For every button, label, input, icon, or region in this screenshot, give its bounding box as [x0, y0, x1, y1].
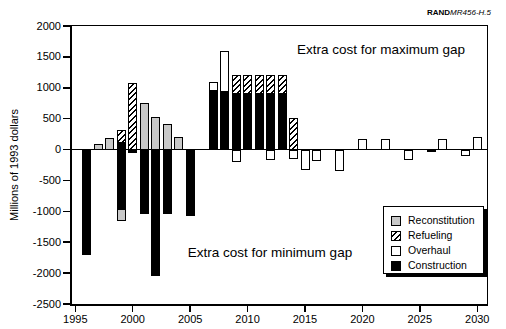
x-tick-mark	[132, 306, 134, 312]
chart-root: RANDMR456-H.5 Millions of 1993 dollars 2…	[0, 0, 506, 329]
bar-1999-reconstitution	[117, 209, 126, 221]
bar-2008-overhaul	[220, 51, 229, 93]
bar-2026-construction	[427, 150, 436, 152]
bar-2008-construction	[220, 92, 229, 149]
bar-2010-refueling	[243, 75, 252, 94]
bar-2001-reconstitution	[140, 103, 149, 149]
y-tick-mark	[63, 272, 70, 274]
legend-item-overhaul: Overhaul	[391, 243, 483, 258]
bar-2007-overhaul	[209, 82, 218, 91]
bar-2012-construction	[266, 94, 275, 150]
bar-2002-construction	[151, 150, 160, 277]
bar-2009-refueling	[232, 75, 241, 94]
y-tick-label: 1500	[15, 50, 61, 63]
y-tick-label: -500	[15, 174, 61, 187]
x-tick-mark	[189, 306, 191, 312]
y-tick-mark	[63, 211, 70, 213]
legend-swatch-overhaul	[391, 246, 401, 256]
bar-2003-construction	[163, 150, 172, 214]
y-tick-mark	[63, 118, 70, 120]
x-tick-label: 2010	[226, 313, 270, 326]
y-tick-mark	[63, 149, 70, 151]
bar-2010-construction	[243, 94, 252, 150]
y-tick-mark	[63, 241, 70, 243]
y-tick-label: 0	[15, 143, 61, 156]
y-tick-label: -1500	[15, 236, 61, 249]
x-tick-mark	[247, 306, 249, 312]
bar-2024-overhaul	[404, 150, 413, 161]
legend-item-reconstitution: Reconstitution	[391, 213, 483, 228]
y-tick-label: -2500	[15, 298, 61, 311]
bar-2011-refueling	[255, 75, 264, 94]
legend-label: Reconstitution	[408, 215, 475, 226]
bar-2013-construction	[278, 94, 287, 150]
y-tick-mark	[63, 25, 70, 27]
annotation-max-gap: Extra cost for maximum gap	[297, 42, 463, 57]
legend-item-construction: Construction	[391, 258, 483, 273]
y-tick-label: -1000	[15, 205, 61, 218]
legend-swatch-reconstitution	[391, 216, 401, 226]
bar-2030-overhaul	[473, 137, 482, 149]
legend-label: Overhaul	[408, 245, 451, 256]
x-tick-label: 2015	[283, 313, 327, 326]
y-tick-label: 500	[15, 112, 61, 125]
x-tick-mark	[75, 306, 77, 312]
y-tick-mark	[63, 180, 70, 182]
bar-2011-construction	[255, 94, 264, 150]
bar-2015-overhaul	[301, 150, 310, 170]
x-tick-label: 2005	[168, 313, 212, 326]
bar-2007-construction	[209, 91, 218, 150]
legend-item-refueling: Refueling	[391, 228, 483, 243]
bar-2014-overhaul	[289, 150, 298, 159]
y-tick-label: 2000	[15, 20, 61, 33]
annotation-min-gap: Extra cost for minimum gap	[184, 245, 356, 260]
x-tick-label: 1995	[53, 313, 97, 326]
bar-2012-refueling	[266, 75, 275, 94]
bar-2000-refueling	[128, 83, 137, 149]
bar-1997-reconstitution	[94, 144, 103, 150]
y-tick-label: 1000	[15, 81, 61, 94]
bar-2003-reconstitution	[163, 124, 172, 150]
x-tick-label: 2020	[340, 313, 384, 326]
bar-2000-construction	[128, 150, 137, 154]
x-tick-label: 2025	[398, 313, 442, 326]
x-tick-mark	[304, 306, 306, 312]
legend-box: ReconstitutionRefuelingOverhaulConstruct…	[383, 206, 484, 274]
x-tick-mark	[362, 306, 364, 312]
bar-1996-construction	[82, 150, 91, 255]
bar-2005-construction	[186, 150, 195, 216]
bar-2001-construction	[140, 150, 149, 215]
bar-1998-reconstitution	[105, 138, 114, 149]
legend-label: Refueling	[408, 230, 452, 241]
legend-swatch-construction	[391, 261, 401, 271]
bar-2022-overhaul	[381, 139, 390, 150]
bar-2013-refueling	[278, 75, 287, 94]
x-tick-mark	[419, 306, 421, 312]
bar-2002-reconstitution	[151, 117, 160, 149]
y-tick-mark	[63, 56, 70, 58]
bar-1999-construction	[117, 150, 126, 209]
bar-2004-reconstitution	[174, 137, 183, 149]
bar-1999-construction	[117, 143, 126, 150]
y-tick-label: -2000	[15, 267, 61, 280]
x-tick-mark	[477, 306, 479, 312]
bar-2020-overhaul	[358, 139, 367, 150]
y-tick-mark	[63, 87, 70, 89]
legend-label: Construction	[408, 260, 467, 271]
bar-2016-overhaul	[312, 150, 321, 161]
bar-1999-refueling	[117, 130, 126, 143]
x-tick-label: 2000	[111, 313, 155, 326]
legend-swatch-refueling	[391, 231, 401, 241]
rand-brand-label: RAND	[427, 8, 450, 17]
bar-2014-refueling	[289, 118, 298, 150]
bar-2018-overhaul	[335, 150, 344, 172]
bar-2012-overhaul	[266, 150, 275, 161]
bar-2009-overhaul	[232, 150, 241, 162]
bar-2009-construction	[232, 94, 241, 150]
y-tick-mark	[63, 303, 70, 305]
source-label: RANDMR456-H.5	[427, 8, 491, 17]
bar-2029-overhaul	[461, 150, 470, 156]
x-tick-label: 2030	[455, 313, 499, 326]
document-reference-label: MR456-H.5	[450, 8, 491, 17]
bar-2027-overhaul	[438, 139, 447, 150]
